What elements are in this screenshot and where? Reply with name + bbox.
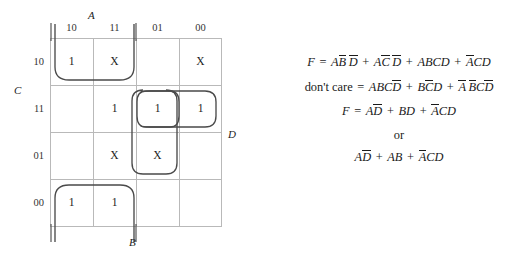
kmap-column-header-1: 11 <box>93 22 136 33</box>
kmap-cell-r1c3: 1 <box>179 103 222 115</box>
eq1-term1-A: A <box>331 55 339 69</box>
eq1-term2-Cbar: C <box>381 55 389 69</box>
eq3-term1-Dbar: D <box>373 104 382 118</box>
eq4-term1-A: A <box>355 150 363 164</box>
equation-line-3: F = AD + BD + ACD <box>276 104 522 118</box>
eq1-term1-Bbar: B <box>339 55 347 69</box>
kmap-column-header-0: 10 <box>50 22 93 33</box>
eq1-lhs: F <box>307 55 315 69</box>
eq3-plus-2: + <box>418 104 428 118</box>
eq2-term3-Abar: A <box>458 80 466 94</box>
kmap-cell-r2c2: X <box>136 150 179 162</box>
eq1-plus-3: + <box>453 55 463 69</box>
eq2-term3-Bbar: B <box>469 80 477 94</box>
kmap-cell-r2c1: X <box>93 150 136 162</box>
equation-line-4: AD + AB + ACD <box>276 150 522 164</box>
kmap-cell-r1c1: 1 <box>93 103 136 115</box>
kmap-cell-r3c0: 1 <box>50 197 93 209</box>
kmap-row-header-0: 10 <box>22 56 44 67</box>
eq2-term3-Dbar: D <box>484 80 493 94</box>
kmap-row-header-1: 11 <box>22 103 44 114</box>
eq1-plus-2: + <box>404 55 414 69</box>
eq1-term1-Dbar: D <box>349 55 358 69</box>
eq3-term3-Abar: A <box>431 104 439 118</box>
eq3-term2-BD: BD <box>399 104 416 118</box>
eq1-term4-Abar: A <box>466 55 474 69</box>
eq2-term1-Dbar: D <box>392 80 401 94</box>
kmap-cell-r1c2: 1 <box>136 103 179 115</box>
variable-label-b: B <box>129 236 136 248</box>
kmap-row-header-2: 01 <box>22 150 44 161</box>
eq2-lhs: don't care <box>305 80 353 94</box>
kmap-cell-r0c3: X <box>179 56 222 68</box>
eq2-plus-1: + <box>404 80 414 94</box>
eq3-lhs: F <box>342 104 350 118</box>
kmap-column-header-2: 01 <box>136 22 179 33</box>
equations-block: F = ABD + ACD + ABCD + ACD don't care = … <box>276 55 522 164</box>
variable-label-a: A <box>88 9 95 21</box>
eq4-term2-AB: AB <box>387 150 402 164</box>
kmap-cell-r0c0: 1 <box>50 56 93 68</box>
eq2-plus-2: + <box>445 80 455 94</box>
eq2-term2-D: D <box>433 80 442 94</box>
kmap-cell-r0c1: X <box>93 56 136 68</box>
eq4-term3-CD: CD <box>426 150 443 164</box>
kmap-container: 10 11 01 00 10 11 01 00 A C D B 1 X X 1 … <box>0 0 270 260</box>
eq1-plus-1: + <box>361 55 371 69</box>
group-loop-bottom-left <box>55 185 134 242</box>
eq1-equals: = <box>318 55 328 69</box>
eq4-plus-2: + <box>406 150 416 164</box>
eq3-term3-CD: CD <box>439 104 456 118</box>
eq3-plus-1: + <box>385 104 395 118</box>
eq1-term4-CD: CD <box>474 55 491 69</box>
kmap-row-header-3: 00 <box>22 197 44 208</box>
variable-label-d: D <box>228 128 236 140</box>
eq4-plus-1: + <box>374 150 384 164</box>
eq1-term3-ABCD: ABCD <box>417 55 449 69</box>
equation-line-1: F = ABD + ACD + ABCD + ACD <box>276 55 522 69</box>
eq3-equals: = <box>353 104 363 118</box>
kmap-column-header-3: 00 <box>179 22 222 33</box>
eq2-equals: = <box>356 80 366 94</box>
karnaugh-map-figure: 10 11 01 00 10 11 01 00 A C D B 1 X X 1 … <box>0 0 522 260</box>
eq2-term2-B: B <box>417 80 425 94</box>
kmap-cell-r3c1: 1 <box>93 197 136 209</box>
eq1-term2-A: A <box>374 55 382 69</box>
variable-label-c: C <box>14 84 21 96</box>
eq1-term2-Dbar: D <box>392 55 401 69</box>
equation-line-2: don't care = ABCD + BCD + ABCD <box>276 80 522 94</box>
equation-or-label: or <box>276 129 522 141</box>
eq2-term1-ABC: ABC <box>369 80 392 94</box>
eq4-term1-Dbar: D <box>362 150 371 164</box>
